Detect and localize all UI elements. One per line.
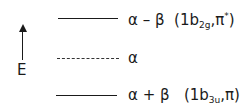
level-bonding-line <box>56 95 117 96</box>
arrow-up-icon <box>19 24 27 32</box>
level-bonding-label: α + β (1b3u,π) <box>128 88 240 105</box>
energy-axis-label: E <box>17 63 26 78</box>
orbital-subscript: 3u <box>209 95 220 105</box>
orbital-prefix: (1b <box>184 86 209 104</box>
level-antibonding-line <box>58 18 118 19</box>
level-antibonding-label: α – β (1b2g,π*) <box>128 12 235 30</box>
orbital-type: ,π <box>210 11 224 29</box>
energy-expression: α + β <box>128 86 170 104</box>
orbital-suffix: ) <box>229 11 235 29</box>
orbital-prefix: (1b <box>174 11 199 29</box>
level-nonbonding-label: α <box>128 51 138 66</box>
energy-expression: α – β <box>128 11 165 29</box>
orbital-suffix: ) <box>234 86 240 104</box>
axis-line <box>22 30 23 60</box>
orbital-type: ,π <box>220 86 234 104</box>
level-nonbonding-line <box>57 58 119 59</box>
orbital-subscript: 2g <box>199 20 210 30</box>
